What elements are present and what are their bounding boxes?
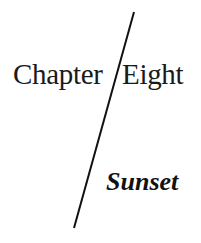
chapter-number: Eight <box>122 60 183 89</box>
chapter-title: Sunset <box>106 169 178 195</box>
chapter-title-page: Chapter Eight Sunset <box>0 0 201 243</box>
chapter-label: Chapter <box>13 60 103 89</box>
diagonal-divider-line <box>0 0 201 243</box>
